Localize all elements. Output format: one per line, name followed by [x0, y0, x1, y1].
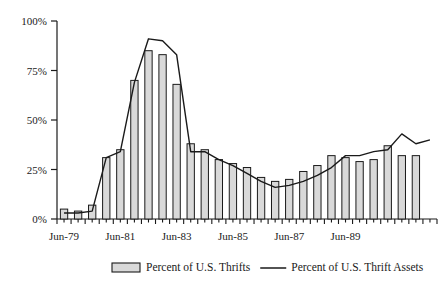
bar [229, 164, 236, 219]
y-tick-label: 0% [32, 213, 47, 225]
y-tick-label: 100% [21, 15, 47, 27]
x-tick-label: Jun-87 [274, 230, 304, 242]
x-tick-label: Jun-79 [49, 230, 79, 242]
bar [398, 156, 405, 219]
thrift-percentage-chart: 0%25%50%75%100% Jun-79Jun-81Jun-83Jun-85… [0, 0, 445, 286]
bar [173, 84, 180, 219]
legend-label-thrifts: Percent of U.S. Thrifts [146, 261, 251, 273]
chart-figure: 0%25%50%75%100% Jun-79Jun-81Jun-83Jun-85… [0, 0, 445, 286]
legend-label-thrift-assets: Percent of U.S. Thrift Assets [291, 261, 424, 273]
x-tick-label: Jun-81 [105, 230, 135, 242]
chart-background [0, 0, 445, 286]
bar [257, 177, 264, 219]
bar [159, 55, 166, 219]
bar [60, 209, 67, 219]
bar [117, 150, 124, 219]
x-tick-label: Jun-85 [218, 230, 248, 242]
bar [145, 51, 152, 219]
bar [412, 156, 419, 219]
y-tick-label: 50% [27, 114, 47, 126]
bar [300, 171, 307, 219]
x-tick-label: Jun-89 [331, 230, 361, 242]
bar [131, 80, 138, 219]
bar [342, 158, 349, 219]
legend-swatch-thrifts [112, 263, 140, 272]
y-tick-label: 25% [27, 164, 47, 176]
y-tick-label: 75% [27, 65, 47, 77]
bar [187, 144, 194, 219]
x-tick-label: Jun-83 [162, 230, 192, 242]
bar [370, 160, 377, 219]
bar [356, 162, 363, 219]
bar [215, 160, 222, 219]
bar [201, 150, 208, 219]
bar [384, 146, 391, 219]
